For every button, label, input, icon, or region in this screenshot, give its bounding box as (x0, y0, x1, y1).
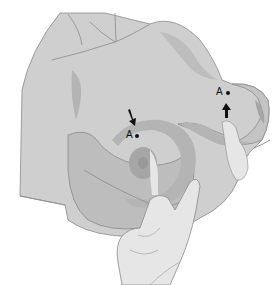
point-marker-front (135, 134, 139, 138)
nipple (138, 157, 148, 169)
breast-exam-illustration (0, 0, 278, 285)
label-a-side: A (216, 87, 223, 97)
label-a-front: A (126, 130, 133, 140)
point-marker-side (226, 91, 230, 95)
